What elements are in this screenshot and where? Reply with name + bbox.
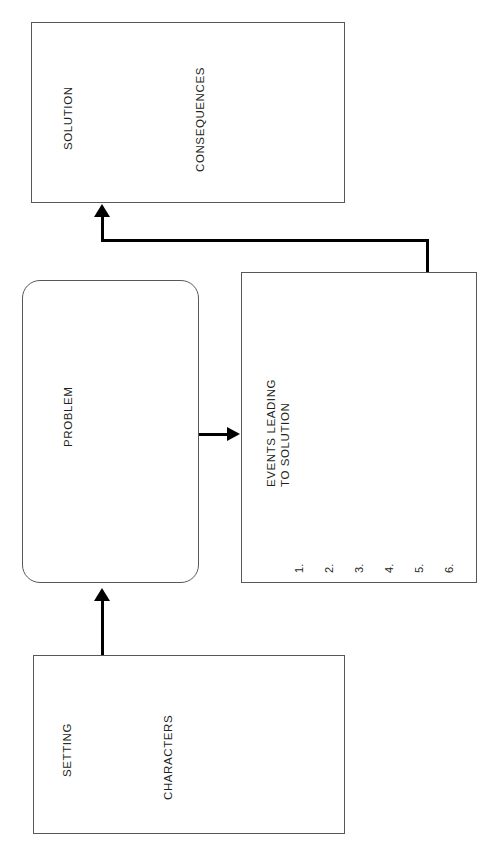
setting-to-problem-line bbox=[101, 600, 104, 655]
story-map-diagram: SOLUTION CONSEQUENCES PROBLEM EVENTS LEA… bbox=[0, 0, 499, 852]
solution-box[interactable] bbox=[31, 22, 345, 203]
problem-to-events-line bbox=[199, 433, 228, 436]
list-item: 6. bbox=[443, 563, 456, 573]
list-item: 1. bbox=[293, 563, 306, 573]
problem-box-label: PROBLEM bbox=[62, 387, 76, 447]
list-item: 4. bbox=[383, 563, 396, 573]
problem-box[interactable] bbox=[22, 280, 199, 583]
events-box-label-line2: TO SOLUTION bbox=[278, 379, 292, 487]
list-item: 2. bbox=[323, 563, 336, 573]
events-box-label-line1: EVENTS LEADING bbox=[264, 379, 278, 487]
problem-to-events-arrowhead bbox=[227, 427, 240, 441]
setting-to-problem-arrowhead bbox=[94, 588, 110, 601]
consequences-label: CONSEQUENCES bbox=[194, 67, 208, 172]
events-to-solution-arrowhead bbox=[94, 204, 110, 217]
events-box-label: EVENTS LEADING TO SOLUTION bbox=[264, 379, 292, 487]
events-to-solution-run bbox=[101, 239, 429, 242]
setting-box-label: SETTING bbox=[61, 723, 75, 777]
list-item: 5. bbox=[413, 563, 426, 573]
list-item: 3. bbox=[353, 563, 366, 573]
solution-box-label: SOLUTION bbox=[62, 86, 76, 150]
events-to-solution-riser bbox=[426, 240, 429, 273]
characters-label: CHARACTERS bbox=[162, 715, 176, 800]
events-to-solution-stem bbox=[101, 216, 104, 241]
setting-box[interactable] bbox=[33, 655, 345, 834]
